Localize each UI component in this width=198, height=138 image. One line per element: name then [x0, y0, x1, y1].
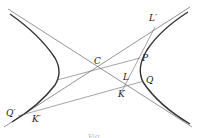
- label-Q: Q: [146, 75, 154, 85]
- label-K-prime: K′: [31, 114, 41, 124]
- label-P: P: [141, 53, 149, 63]
- hyperbola-diagram: C P Q L K L′ Q′ K′ Fig.: [0, 0, 198, 138]
- label-C: C: [94, 56, 101, 66]
- label-Q-prime: Q′: [6, 108, 15, 118]
- right-branch: [140, 12, 190, 124]
- label-L: L: [122, 72, 129, 82]
- asymptote-1: [8, 9, 192, 127]
- figure-caption: Fig.: [88, 133, 102, 138]
- label-L-prime: L′: [148, 13, 157, 23]
- label-K: K: [117, 89, 126, 99]
- left-branch: [10, 14, 59, 122]
- line-QprimeQ: [18, 81, 144, 116]
